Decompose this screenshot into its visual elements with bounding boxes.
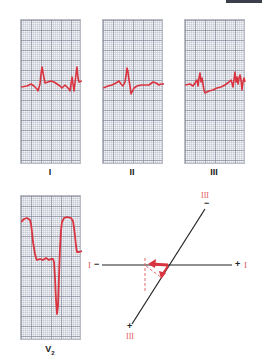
axis-diagram xyxy=(0,0,262,361)
lead-iii-positive-sign: + xyxy=(127,322,132,331)
lead-i-positive-label: I xyxy=(244,261,247,270)
lead-i-negative-sign: − xyxy=(94,260,99,269)
lead-iii-positive-label: III xyxy=(126,333,134,341)
lead-i-positive-sign: + xyxy=(235,260,240,269)
lead-iii-negative-sign: − xyxy=(204,199,209,208)
arrowhead-i xyxy=(148,259,156,268)
lead-i-negative-label: I xyxy=(88,261,91,270)
